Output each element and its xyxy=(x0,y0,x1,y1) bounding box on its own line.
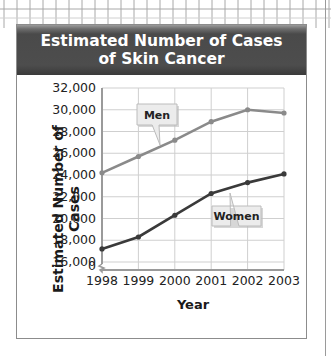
data-point xyxy=(136,154,141,159)
gridlines xyxy=(102,88,284,270)
data-point xyxy=(281,171,286,176)
x-tick-label: 2002 xyxy=(232,273,264,288)
y-tick-label: 22,000 xyxy=(52,189,96,204)
data-point xyxy=(172,138,177,143)
y-tick-label: 0 xyxy=(88,258,96,273)
data-point xyxy=(281,110,286,115)
svg-text:Women: Women xyxy=(213,210,259,223)
x-tick-label: 2003 xyxy=(268,273,300,288)
x-axis-label: Year xyxy=(176,297,210,312)
data-point xyxy=(245,107,250,112)
y-tick-label: 28,000 xyxy=(52,124,96,139)
data-point xyxy=(99,246,104,251)
data-series xyxy=(99,107,286,251)
x-tick-label: 1998 xyxy=(86,273,118,288)
data-point xyxy=(99,170,104,175)
x-tick-labels: 199819992000200120022003 xyxy=(86,273,300,288)
data-point xyxy=(172,213,177,218)
data-point xyxy=(209,191,214,196)
y-tick-label: 32,000 xyxy=(52,80,96,95)
y-tick-labels: 32,00030,00028,00026,00024,00022,00020,0… xyxy=(52,80,96,273)
y-tick-label: 26,000 xyxy=(52,145,96,160)
y-tick-label: 30,000 xyxy=(52,102,96,117)
x-tick-label: 1999 xyxy=(122,273,154,288)
data-point xyxy=(209,119,214,124)
data-point xyxy=(245,180,250,185)
y-tick-label: 20,000 xyxy=(52,211,96,226)
data-point xyxy=(136,234,141,239)
series-men-line xyxy=(102,110,284,173)
y-tick-label: 18,000 xyxy=(52,232,96,247)
svg-text:Men: Men xyxy=(144,109,170,122)
x-tick-label: 2000 xyxy=(159,273,191,288)
series-callouts: MenWomen xyxy=(137,104,263,228)
y-tick-label: 24,000 xyxy=(52,167,96,182)
line-chart: 32,00030,00028,00026,00024,00022,00020,0… xyxy=(0,0,331,356)
x-tick-label: 2001 xyxy=(195,273,227,288)
women-callout: Women xyxy=(212,193,263,228)
